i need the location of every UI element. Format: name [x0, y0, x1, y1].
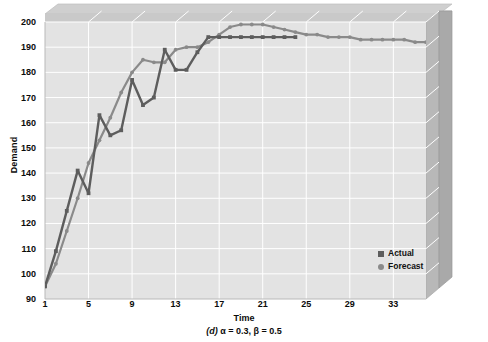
x-axis-tick-label: 13 [171, 299, 181, 309]
plot-background [45, 22, 426, 299]
x-axis-tick-label: 33 [388, 299, 398, 309]
figure-caption: (d) α = 0.3, β = 0.5 [0, 326, 488, 336]
y-axis-tick-label: 120 [6, 218, 36, 228]
caption-params: α = 0.3, β = 0.5 [218, 326, 282, 336]
y-axis-tick-label: 200 [6, 17, 36, 27]
x-axis-tick-label: 9 [130, 299, 135, 309]
wall-top-band [45, 14, 439, 22]
caption-label: (d) [206, 326, 218, 336]
y-axis-tick-label: 100 [6, 269, 36, 279]
y-axis-tick-label: 110 [6, 244, 36, 254]
y-axis-tick-label: 170 [6, 93, 36, 103]
legend-swatch-square-icon [378, 251, 384, 257]
legend-swatch-circle-icon [378, 264, 384, 270]
legend-item-forecast: Forecast [378, 260, 464, 273]
y-axis-title: Demand [9, 125, 19, 185]
x-axis-tick-label: 1 [42, 299, 47, 309]
y-axis-tick-label: 180 [6, 67, 36, 77]
legend-label-forecast: Forecast [388, 260, 423, 273]
x-axis-tick-label: 17 [214, 299, 224, 309]
legend-label-actual: Actual [388, 247, 414, 260]
x-axis-tick-label: 21 [258, 299, 268, 309]
wall-top-surface-2 [45, 4, 452, 14]
x-axis-tick-label: 5 [86, 299, 91, 309]
y-axis-tick-label: 190 [6, 42, 36, 52]
x-axis-tick-label: 29 [345, 299, 355, 309]
x-axis-ticks: 159131721252933 [0, 299, 488, 313]
x-axis-tick-label: 25 [301, 299, 311, 309]
chart-legend: Actual Forecast [378, 247, 464, 273]
chart-plot-area [0, 0, 488, 342]
y-axis-tick-label: 130 [6, 193, 36, 203]
x-axis-title: Time [0, 313, 488, 323]
legend-item-actual: Actual [378, 247, 464, 260]
chart-container: 90100110120130140150160170180190200 Dema… [0, 0, 488, 342]
